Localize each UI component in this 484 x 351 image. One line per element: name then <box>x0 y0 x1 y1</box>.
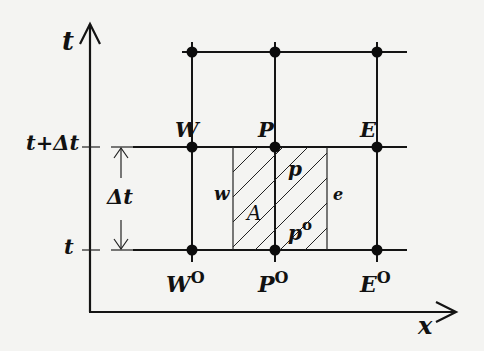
label-t: t <box>64 234 74 259</box>
diagram-canvas: t x t+Δt t Δt W P E WO PO EO w e A p po <box>0 0 484 351</box>
label-node-e-old: EO <box>359 268 391 297</box>
label-node-e: E <box>359 117 377 142</box>
label-east-face: e <box>333 185 343 204</box>
node-top-w <box>187 47 198 58</box>
grid-lines <box>133 42 407 262</box>
time-axis <box>80 24 100 312</box>
label-p-new: p <box>288 157 302 181</box>
label-node-w-old: WO <box>166 268 205 297</box>
label-delta-t: Δt <box>106 184 133 209</box>
node-w <box>187 142 198 153</box>
label-p-old: po <box>288 216 312 245</box>
node-w-old <box>187 245 198 256</box>
label-t-plus-dt: t+Δt <box>26 130 80 155</box>
space-axis <box>89 302 456 322</box>
label-area: A <box>245 201 261 225</box>
label-node-p: P <box>257 117 275 142</box>
time-axis-label: t <box>62 26 74 56</box>
nodes <box>187 47 383 256</box>
node-top-e <box>372 47 383 58</box>
node-p <box>270 142 281 153</box>
space-axis-label: x <box>417 311 433 340</box>
label-node-w: W <box>175 117 201 142</box>
node-top-p <box>270 47 281 58</box>
node-e-old <box>372 245 383 256</box>
node-p-old <box>270 245 281 256</box>
node-e <box>372 142 383 153</box>
label-node-p-old: PO <box>257 268 289 297</box>
label-west-face: w <box>214 183 231 204</box>
